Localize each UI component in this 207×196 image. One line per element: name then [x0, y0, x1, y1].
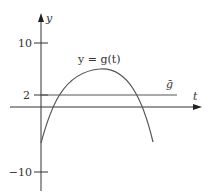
t-axis: t: [10, 90, 202, 110]
curve-g: y = g(t): [41, 53, 153, 143]
t-axis-label: t: [193, 90, 198, 103]
curve-label: y = g(t): [77, 53, 120, 66]
y-axis: y 10 2 −10: [9, 12, 53, 191]
y-axis-arrow-icon: [38, 13, 44, 22]
tick-label-10: 10: [18, 37, 32, 50]
chart: t y 10 2 −10 ḡ y = g(t): [0, 0, 207, 196]
tick-label-2: 2: [23, 89, 30, 102]
tick-label-neg10: −10: [9, 166, 32, 179]
gbar-label: ḡ: [166, 78, 173, 91]
y-axis-label: y: [45, 12, 53, 25]
t-axis-arrow-icon: [193, 104, 202, 110]
